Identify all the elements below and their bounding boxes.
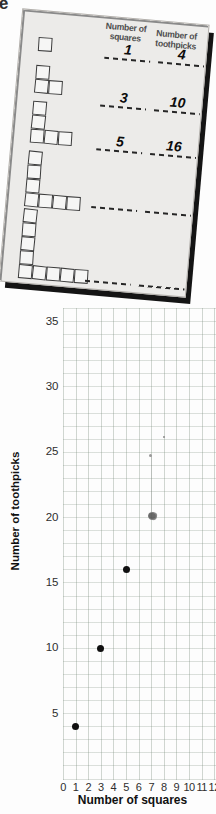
x-axis-title: Number of squares [40, 793, 216, 807]
figure-square [46, 267, 61, 282]
worksheet-card: Number of squares Number of toothpicks 1… [0, 8, 210, 297]
y-axis-title: Number of toothpicks [9, 498, 21, 524]
figure-square [35, 65, 50, 80]
scan-streak-artifact [151, 455, 152, 513]
cut-off-text-fragment: e [0, 0, 9, 14]
figure-square [32, 265, 47, 280]
y-tick-label: 15 [30, 576, 58, 588]
figure-square [44, 130, 59, 145]
scanned-textbook-page: e Number of squares Number of toothpicks… [0, 0, 216, 814]
figure-square [52, 195, 67, 210]
speck-artifact [149, 454, 152, 457]
y-axis-title-text: Number of toothpicks [9, 452, 21, 571]
answer-line-squares [91, 206, 137, 212]
figure-square [28, 150, 43, 165]
worksheet-content: Number of squares Number of toothpicks 1… [0, 9, 208, 296]
grid-area [63, 308, 216, 780]
answer-line-toothpicks [138, 285, 184, 291]
figure-square [34, 79, 49, 94]
figure-square [48, 80, 63, 95]
y-tick-label: 20 [30, 511, 58, 523]
figure-square [58, 131, 73, 146]
figure-square [38, 37, 53, 52]
figure-square [32, 101, 47, 116]
figure-square [23, 208, 38, 223]
speck-artifact [163, 436, 165, 438]
figure-square [38, 194, 53, 209]
figure-square [66, 196, 81, 211]
figure-square [25, 178, 40, 193]
y-tick-label: 35 [30, 315, 58, 327]
y-tick-label: 10 [30, 641, 58, 653]
x-tick-label: 12 [204, 781, 216, 793]
answer-line-toothpicks [145, 211, 191, 217]
figure-square [30, 129, 45, 144]
figure-square [18, 264, 33, 279]
figure-square [31, 114, 46, 129]
figure-square [20, 236, 35, 251]
figure-square [19, 250, 34, 265]
answer-line-squares [85, 280, 131, 286]
figure-square [27, 165, 42, 180]
y-tick-label: 30 [30, 380, 58, 392]
scatter-point [123, 566, 130, 573]
y-tick-label: 25 [30, 445, 58, 457]
figure-square [60, 268, 75, 283]
figure-square [22, 222, 37, 237]
figure-square [24, 192, 39, 207]
y-tick-label: 5 [30, 707, 58, 719]
